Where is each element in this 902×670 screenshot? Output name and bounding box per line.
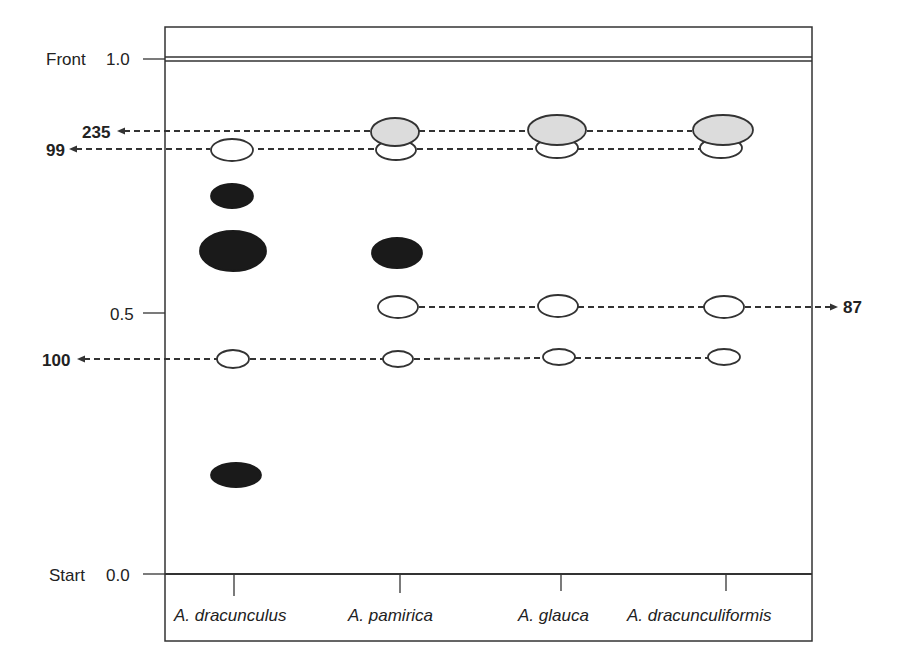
lane-label-pamirica: A. pamirica [347, 606, 433, 625]
spot-open [704, 296, 744, 318]
spot-open [383, 351, 413, 367]
spot-open [543, 349, 575, 365]
reference-lines [76, 131, 830, 359]
line-100-seg3 [414, 358, 543, 359]
tlc-plate-diagram: Front 1.0 0.5 Start 0.0 235 99 87 100 [0, 0, 902, 670]
arrow-left-icon [69, 146, 77, 153]
spot-dark [211, 184, 253, 208]
spot-dark [372, 238, 422, 268]
start-label: Start [49, 566, 85, 585]
spot-open [217, 350, 249, 368]
band-label-99: 99 [46, 141, 65, 160]
spot-open [538, 295, 578, 317]
lane-ticks [234, 574, 726, 596]
band-label-235: 235 [82, 123, 110, 142]
start-value: 0.0 [106, 566, 130, 585]
arrow-right-icon [830, 304, 838, 311]
spot-open [211, 139, 253, 161]
mid-value: 0.5 [110, 305, 134, 324]
spot-gray [528, 115, 586, 145]
front-value: 1.0 [106, 50, 130, 69]
lane-label-dracunculus: A. dracunculus [173, 606, 287, 625]
front-label: Front [46, 50, 86, 69]
arrow-left-icon [117, 128, 125, 135]
spot-dark [211, 463, 261, 487]
arrow-left-icon [77, 356, 85, 363]
spot-open [378, 296, 418, 318]
band-label-100: 100 [42, 351, 70, 370]
lane-label-dracunculiformis: A. dracunculiformis [626, 606, 772, 625]
spot-gray [693, 115, 753, 145]
arrowheads [69, 128, 838, 363]
spots-group [200, 115, 753, 487]
lane-label-glauca: A. glauca [517, 606, 589, 625]
spot-gray [371, 118, 419, 146]
spot-open [708, 349, 740, 365]
band-label-87: 87 [843, 298, 862, 317]
spot-dark [200, 231, 266, 271]
